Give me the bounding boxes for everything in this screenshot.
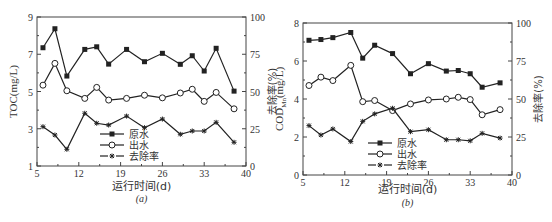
legend-label: 原水 (397, 138, 417, 149)
square-marker-icon (408, 71, 413, 76)
legend-item: 出水 (368, 148, 417, 160)
legend-label: 出水 (397, 148, 417, 160)
square-marker-icon (232, 89, 237, 94)
star-marker-icon (318, 133, 323, 138)
square-marker-icon (468, 71, 473, 76)
square-marker-icon (110, 132, 115, 137)
series-line (309, 108, 500, 141)
square-marker-icon (82, 47, 87, 52)
star-marker-icon (498, 136, 503, 141)
y-tick-label: 7 (28, 49, 33, 60)
legend-item: 去除率 (368, 159, 427, 171)
square-marker-icon (160, 51, 165, 56)
star-marker-icon (178, 132, 183, 137)
legend-item: 原水 (100, 129, 149, 140)
circle-marker-icon (189, 86, 195, 92)
legend-label: 出水 (129, 139, 149, 151)
square-marker-icon (214, 46, 219, 51)
star-marker-icon (124, 114, 129, 119)
square-marker-icon (142, 59, 147, 64)
figure: 51219263340135790255075100运行时间(d)TOC(mg/… (0, 0, 552, 222)
circle-marker-icon (177, 90, 183, 96)
y-tick-label: 3 (28, 124, 33, 135)
star-marker-icon (110, 154, 115, 159)
star-marker-icon (94, 121, 99, 126)
circle-marker-icon (360, 99, 366, 105)
y-right-tick-label: 100 (250, 12, 265, 23)
star-marker-icon (426, 127, 431, 132)
y-tick-label: 2 (294, 132, 299, 143)
square-marker-icon (106, 62, 111, 67)
circle-marker-icon (231, 106, 237, 112)
y-right-tick-label: 75 (250, 49, 260, 60)
y-tick-label: 9 (28, 12, 33, 23)
square-marker-icon (360, 56, 365, 61)
circle-marker-icon (94, 84, 100, 90)
star-marker-icon (444, 137, 449, 142)
square-marker-icon (480, 85, 485, 90)
circle-marker-icon (318, 74, 324, 80)
x-tick-label: 19 (116, 168, 126, 179)
y-tick-label: 8 (294, 18, 299, 29)
square-marker-icon (64, 74, 69, 79)
chart-panel-a: 51219263340135790255075100运行时间(d)TOC(mg/… (7, 12, 278, 205)
x-tick-label: 26 (157, 168, 167, 179)
y-right-tick-label: 50 (250, 87, 260, 98)
circle-marker-icon (330, 78, 336, 84)
y-right-tick-label: 25 (516, 132, 526, 143)
x-tick-label: 33 (465, 177, 475, 188)
circle-marker-icon (306, 83, 312, 89)
legend-label: 原水 (129, 129, 149, 140)
y-tick-label: 0 (294, 170, 299, 181)
y-tick-label: 1 (28, 161, 33, 172)
circle-marker-icon (141, 92, 147, 98)
y-tick-label: 5 (28, 87, 33, 98)
star-marker-icon (106, 123, 111, 128)
legend: 原水出水去除率 (368, 138, 427, 171)
star-marker-icon (82, 111, 87, 116)
star-marker-icon (456, 137, 461, 142)
legend-label: 去除率 (129, 150, 159, 162)
dual-panel-line-chart: 51219263340135790255075100运行时间(d)TOC(mg/… (0, 0, 552, 222)
square-marker-icon (52, 26, 57, 31)
square-marker-icon (498, 80, 503, 85)
star-marker-icon (214, 120, 219, 125)
circle-marker-icon (201, 98, 207, 104)
star-marker-icon (372, 111, 377, 116)
y-right-tick-label: 50 (516, 94, 526, 105)
circle-marker-icon (109, 142, 115, 148)
y-right-tick-label: 0 (250, 161, 255, 172)
square-marker-icon (378, 141, 383, 146)
y-tick-label: 6 (294, 56, 299, 67)
star-marker-icon (64, 147, 69, 152)
star-marker-icon (40, 124, 45, 129)
series-出水 (40, 60, 237, 111)
x-axis-label: 运行时间(d) (112, 180, 172, 193)
star-marker-icon (378, 163, 383, 168)
y-right-axis-label: 去除率(%) (532, 75, 544, 122)
circle-marker-icon (213, 89, 219, 95)
legend: 原水出水去除率 (100, 129, 159, 162)
series-原水 (40, 26, 236, 93)
square-marker-icon (94, 44, 99, 49)
star-marker-icon (390, 106, 395, 111)
square-marker-icon (372, 43, 377, 48)
star-marker-icon (52, 133, 57, 138)
square-marker-icon (456, 68, 461, 73)
chart-panel-b: 51219263340024680255075100运行时间(d)CODMn(m… (273, 18, 544, 209)
panel-caption: (b) (402, 197, 414, 209)
star-marker-icon (202, 128, 207, 133)
square-marker-icon (190, 53, 195, 58)
circle-marker-icon (40, 82, 46, 88)
circle-marker-icon (372, 98, 378, 104)
circle-marker-icon (467, 97, 473, 103)
star-marker-icon (360, 119, 365, 124)
circle-marker-icon (106, 97, 112, 103)
series-line (43, 29, 234, 91)
circle-marker-icon (124, 95, 130, 101)
circle-marker-icon (443, 96, 449, 102)
square-marker-icon (318, 37, 323, 42)
square-marker-icon (124, 47, 129, 52)
star-marker-icon (480, 131, 485, 136)
square-marker-icon (390, 51, 395, 56)
